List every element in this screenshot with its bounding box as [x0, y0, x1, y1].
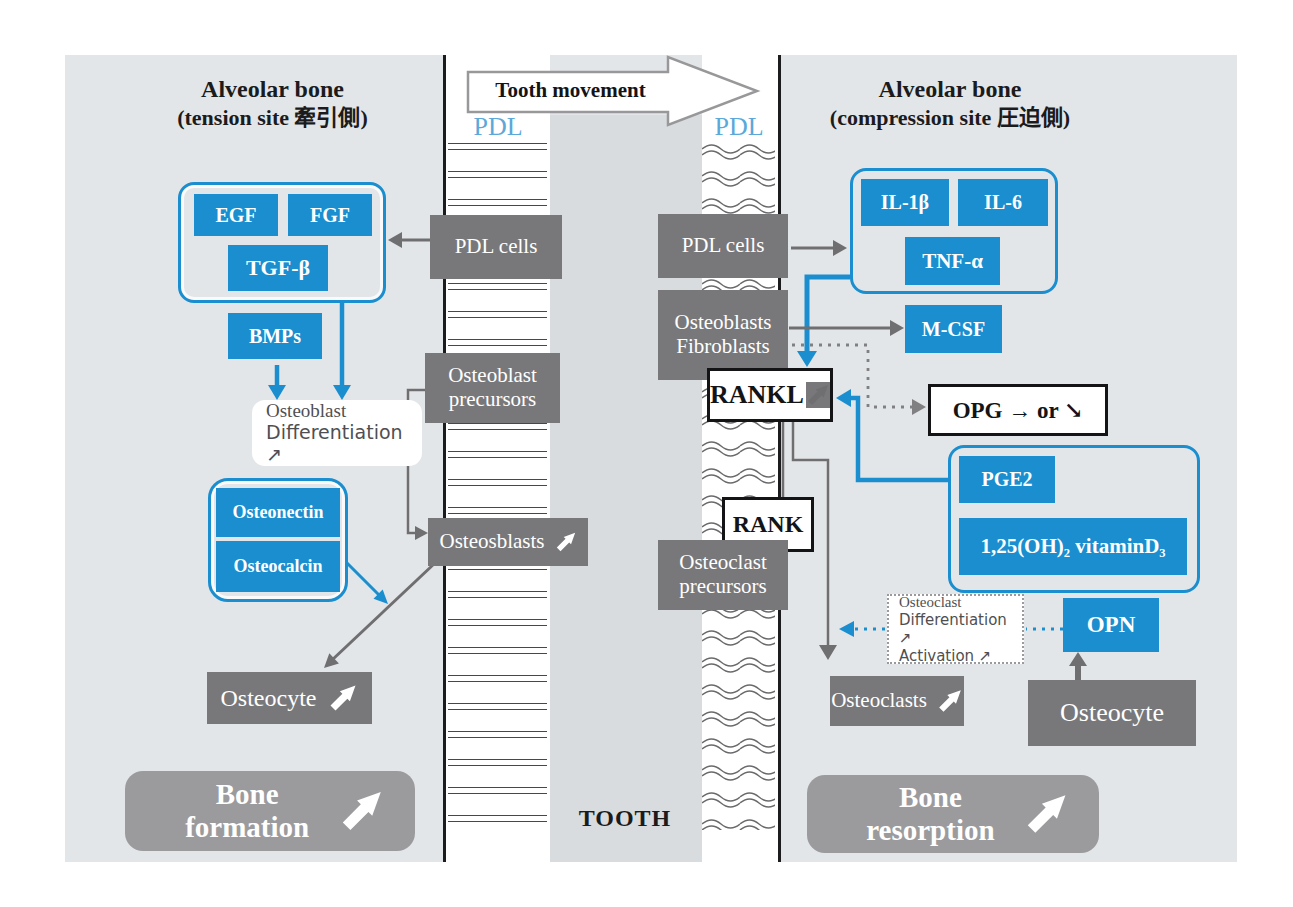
ne-arrow-icon — [1024, 790, 1069, 838]
osteoblasts-label: Osteosblasts — [440, 530, 545, 554]
mcsf-box: M-CSF — [905, 305, 1002, 353]
pdl-label-left: PDL — [455, 112, 541, 142]
osteoclast-differentiation-line2: Differentiation ↗ — [899, 611, 1022, 647]
diagram-tooth-movement: Tooth movement PDL PDL TOOTH Alveolar bo… — [0, 0, 1293, 907]
osteocyte-right-box: Osteocyte — [1028, 680, 1196, 746]
right-title: Alveolar bone (compression site 圧迫側) — [760, 74, 1140, 132]
osteoclasts-box: Osteoclasts — [830, 676, 964, 726]
il1b-box: IL-1β — [861, 179, 949, 226]
bone-formation-label: Bone formation — [155, 778, 339, 844]
left-title-line1: Alveolar bone — [85, 74, 460, 104]
bone-resorption-box: Bone resorption — [807, 775, 1099, 853]
osteoblasts-fibroblasts-line1: Osteoblasts — [675, 311, 772, 335]
osteoclast-differentiation-box: Osteoclast Differentiation ↗ Activation … — [887, 594, 1024, 664]
pdl-cells-right-box: PDL cells — [658, 214, 788, 278]
left-title: Alveolar bone (tension site 牽引側) — [85, 74, 460, 132]
osteoclast-differentiation-line3: Activation ↗ — [899, 647, 1022, 665]
osteoclasts-label: Osteoclasts — [831, 689, 927, 713]
pge2-box: PGE2 — [959, 456, 1055, 503]
bone-formation-box: Bone formation — [125, 771, 415, 851]
bmps-box: BMPs — [228, 313, 322, 359]
opg-box: OPG → or ↘ — [928, 384, 1108, 436]
osteoblast-precursors-box: Osteoblast precursors — [425, 353, 560, 423]
tnfa-box: TNF-α — [905, 237, 1000, 285]
osteoblast-differentiation-box: Osteoblast Differentiation ↗ — [252, 400, 422, 466]
osteocyte-left-box: Osteocyte — [207, 672, 372, 724]
ne-arrow-icon — [339, 787, 385, 835]
ne-arrow-icon — [328, 683, 358, 713]
osteoblasts-box: Osteosblasts — [428, 518, 588, 566]
osteoblast-differentiation-line2: Differentiation ↗ — [266, 422, 422, 466]
tgf-beta-box: TGF-β — [228, 245, 328, 291]
right-title-line1: Alveolar bone — [760, 74, 1140, 104]
right-title-line2: (compression site 圧迫側) — [760, 104, 1140, 132]
osteoclast-precursors-box: Osteoclast precursors — [658, 540, 788, 610]
pdl-column-tension — [443, 55, 550, 862]
rankl-label: RANKL — [710, 380, 804, 410]
osteoblasts-fibroblasts-box: Osteoblasts Fibroblasts — [658, 290, 788, 380]
ne-arrow-icon — [937, 688, 963, 714]
pdl-column-compression — [702, 55, 781, 862]
vitamin-d-box: 1,25(OH)₂ vitaminD₃ — [959, 518, 1187, 575]
osteoclast-differentiation-line1: Osteoclast — [899, 593, 1022, 611]
egf-box: EGF — [194, 194, 278, 236]
left-title-line2: (tension site 牽引側) — [85, 104, 460, 132]
tooth-movement-label: Tooth movement — [478, 78, 663, 103]
osteocyte-left-label: Osteocyte — [221, 685, 317, 712]
il6-box: IL-6 — [958, 179, 1048, 226]
tooth-label: TOOTH — [547, 805, 703, 832]
osteocalcin-box: Osteocalcin — [216, 541, 340, 592]
osteoblasts-fibroblasts-line2: Fibroblasts — [675, 335, 772, 359]
ne-arrow-icon — [555, 531, 577, 553]
osteonectin-box: Osteonectin — [216, 488, 340, 537]
rankl-box: RANKL — [707, 368, 833, 422]
osteoblast-differentiation-line1: Osteoblast — [266, 400, 422, 422]
opn-box: OPN — [1063, 598, 1159, 652]
bone-resorption-label: Bone resorption — [837, 781, 1024, 847]
ne-arrow-icon — [806, 382, 830, 408]
fgf-box: FGF — [288, 194, 372, 236]
pdl-cells-left-box: PDL cells — [430, 215, 562, 279]
